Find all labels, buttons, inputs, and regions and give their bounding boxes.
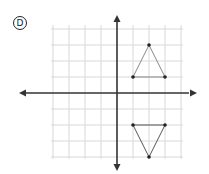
arrow-left-icon [19,90,26,97]
vertex-point [131,75,135,79]
vertex-point [147,155,151,159]
arrow-down-icon [114,164,121,171]
coordinate-plane [0,0,209,174]
vertex-point [163,123,167,127]
vertex-point [163,75,167,79]
vertex-point [131,123,135,127]
arrow-right-icon [190,90,197,97]
vertex-point [147,43,151,47]
arrow-up-icon [114,15,121,22]
axes [19,15,197,171]
